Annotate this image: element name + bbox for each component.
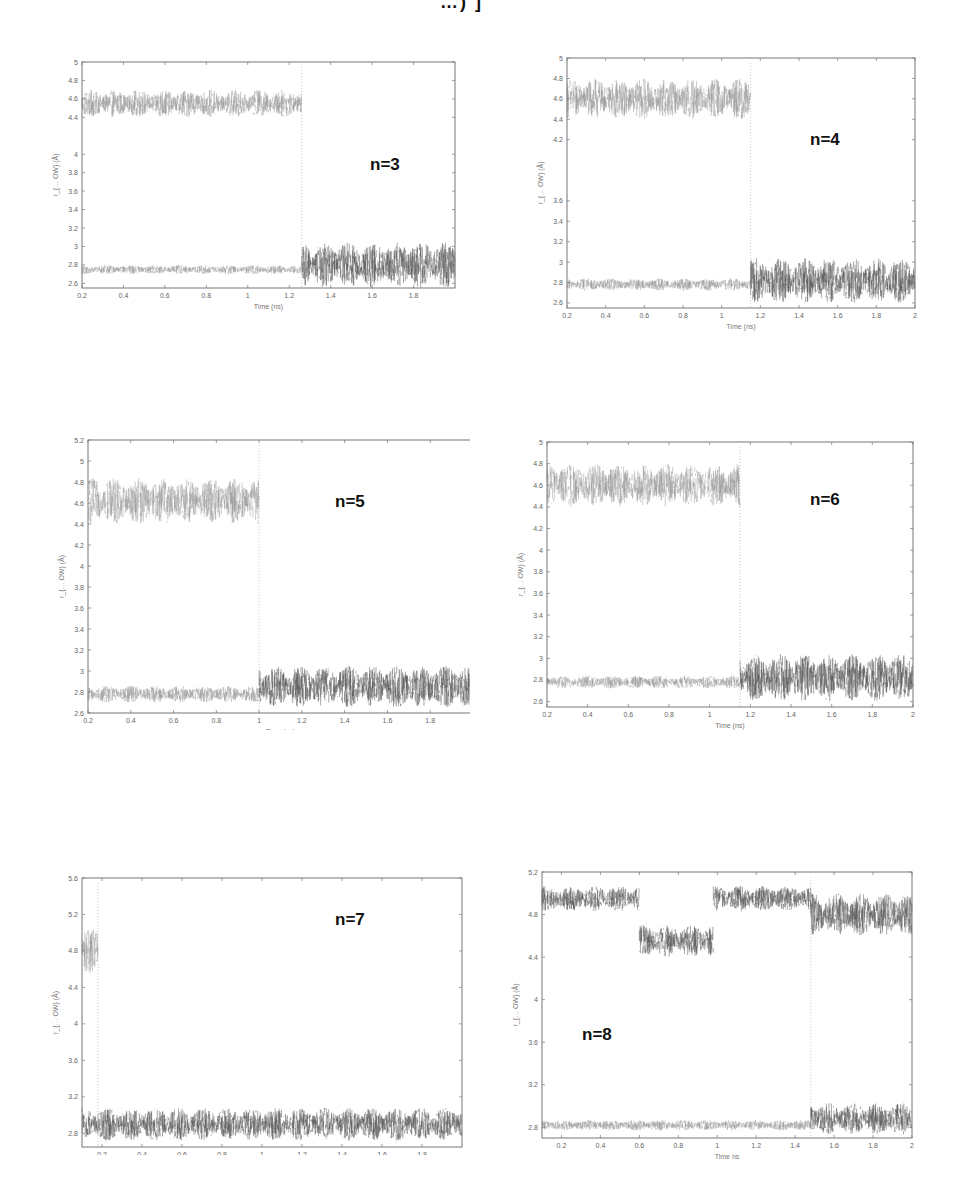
y-tick-label: 4.4	[553, 116, 563, 123]
annotation-label: n=8	[582, 1025, 612, 1045]
x-tick-label: 1.4	[790, 1142, 800, 1149]
y-axis-label: r_{… OW} (Å)	[57, 555, 66, 598]
y-tick-label: 4	[534, 996, 538, 1003]
x-tick-label: 1.2	[745, 711, 755, 718]
x-tick-label: 1.2	[751, 1142, 761, 1149]
y-tick-label: 4	[74, 1020, 78, 1027]
x-tick-label: 0.8	[211, 717, 221, 724]
y-tick-label: 2.8	[528, 1124, 538, 1131]
trace-upper	[88, 478, 259, 524]
y-tick-label: 2.8	[533, 676, 543, 683]
page-header-fragment: …) ]	[440, 0, 483, 13]
y-tick-label: 3.8	[68, 169, 78, 176]
y-tick-label: 4	[74, 151, 78, 158]
x-tick-label: 0.2	[562, 312, 572, 319]
trace-upper	[567, 79, 750, 119]
x-tick-label: 1	[708, 711, 712, 718]
chart-svg: 2.62.833.23.43.63.844.24.44.64.855.20.20…	[30, 430, 470, 730]
x-tick-label: 0.6	[169, 717, 179, 724]
x-tick-label: 1.4	[337, 1151, 347, 1155]
y-tick-label: 2.6	[68, 280, 78, 287]
x-tick-label: 2	[910, 1142, 914, 1149]
y-axis-label: r_{… OW} (Å)	[51, 153, 60, 196]
x-tick-label: 1.4	[326, 292, 336, 299]
x-tick-label: 1.6	[367, 292, 377, 299]
annotation-label: n=7	[335, 910, 365, 930]
y-tick-label: 4.4	[533, 503, 543, 510]
y-tick-label: 3.6	[68, 188, 78, 195]
x-tick-label: 0.4	[119, 292, 129, 299]
x-tick-label: 0.8	[678, 312, 688, 319]
y-tick-label: 3	[74, 243, 78, 250]
x-tick-label: 0.8	[201, 292, 211, 299]
trace-upper	[713, 886, 810, 911]
y-tick-label: 2.8	[68, 1130, 78, 1137]
y-tick-label: 3.4	[74, 626, 84, 633]
y-tick-label: 5	[559, 55, 563, 62]
trace-upper	[547, 464, 740, 507]
x-tick-label: 1.2	[297, 1151, 307, 1155]
x-tick-label: 1.8	[871, 312, 881, 319]
chart-svg: 2.83.23.644.44.85.20.20.40.60.811.21.41.…	[510, 855, 930, 1165]
y-tick-label: 2.6	[74, 710, 84, 717]
y-tick-label: 4.6	[553, 95, 563, 102]
y-tick-label: 4.8	[74, 479, 84, 486]
y-tick-label: 3	[559, 259, 563, 266]
y-tick-label: 3.6	[68, 1057, 78, 1064]
trace-lower	[751, 258, 915, 302]
chart-svg: 2.62.833.23.43.64.24.44.64.850.20.40.60.…	[510, 50, 930, 335]
x-tick-label: 0.6	[635, 1142, 645, 1149]
trace-upper	[639, 925, 713, 956]
x-tick-label: 1	[260, 1151, 264, 1155]
y-tick-label: 3.2	[528, 1081, 538, 1088]
x-tick-label: 0.4	[583, 711, 593, 718]
y-axis-label: r_{… OW} (Å)	[511, 983, 520, 1026]
y-tick-label: 5	[74, 59, 78, 66]
y-tick-label: 4.4	[68, 984, 78, 991]
x-tick-label: 1.6	[829, 1142, 839, 1149]
x-tick-label: 1.2	[755, 312, 765, 319]
y-tick-label: 3.4	[533, 612, 543, 619]
y-tick-label: 2.6	[533, 698, 543, 705]
y-tick-label: 4.8	[528, 911, 538, 918]
x-tick-label: 1.4	[340, 717, 350, 724]
y-tick-label: 3.8	[74, 584, 84, 591]
trace-upper	[811, 894, 912, 936]
y-tick-label: 3.4	[553, 218, 563, 225]
x-tick-label: 0.4	[601, 312, 611, 319]
trace-lower	[811, 1103, 912, 1134]
x-tick-label: 1.8	[868, 1142, 878, 1149]
x-tick-label: 1.4	[794, 312, 804, 319]
annotation-label: n=5	[335, 492, 365, 512]
y-tick-label: 4.4	[68, 114, 78, 121]
x-tick-label: 0.2	[97, 1151, 107, 1155]
y-tick-label: 2.6	[553, 299, 563, 306]
x-tick-label: 0.6	[623, 711, 633, 718]
y-tick-label: 3.2	[68, 1093, 78, 1100]
x-tick-label: 0.8	[217, 1151, 227, 1155]
chart-panel-n3: 2.62.833.23.43.63.844.44.64.850.20.40.60…	[30, 50, 460, 320]
plot-frame	[82, 878, 462, 1147]
trace-lower	[82, 1108, 462, 1141]
annotation-label: n=4	[810, 130, 840, 150]
trace-upper	[82, 930, 98, 974]
x-tick-label: 1.8	[425, 717, 435, 724]
y-tick-label: 2.8	[68, 261, 78, 268]
trace-lower	[259, 666, 470, 707]
y-tick-label: 4.2	[553, 136, 563, 143]
y-tick-label: 5	[80, 458, 84, 465]
x-tick-label: 1.6	[827, 711, 837, 718]
y-tick-label: 4.6	[533, 482, 543, 489]
chart-panel-n4: 2.62.833.23.43.64.24.44.64.850.20.40.60.…	[510, 50, 930, 335]
y-tick-label: 3.2	[553, 238, 563, 245]
x-tick-label: 0.4	[126, 717, 136, 724]
y-tick-label: 5.6	[68, 875, 78, 882]
x-tick-label: 0.4	[596, 1142, 606, 1149]
y-tick-label: 5.2	[68, 911, 78, 918]
x-tick-label: 2	[913, 312, 917, 319]
x-tick-label: 1.8	[409, 292, 419, 299]
trace-lower	[88, 686, 259, 703]
trace-lower	[567, 279, 750, 291]
y-tick-label: 3	[80, 668, 84, 675]
trace-lower	[547, 676, 740, 689]
